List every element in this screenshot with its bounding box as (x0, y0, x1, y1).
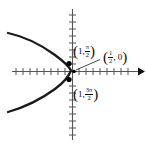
graph-canvas (0, 0, 146, 147)
label-cusp-denominator: 2 (108, 57, 113, 65)
x-axis-arrow-icon (138, 68, 145, 76)
leader-line-cusp (76, 60, 100, 71)
label-point-cusp: (12, 0) (103, 48, 127, 65)
label-cusp-fraction: 12 (108, 50, 113, 65)
point-marker-upper (66, 61, 71, 66)
label-cusp-close: ) (122, 49, 127, 65)
point-marker-cusp (72, 70, 76, 74)
label-upper-numerator: π (85, 44, 90, 51)
label-cusp-numerator: 1 (108, 50, 113, 57)
label-lower-denominator: 2 (85, 94, 94, 102)
point-marker-lower (66, 77, 71, 82)
label-point-lower: (1,3π2) (73, 85, 98, 102)
label-upper-fraction: π2 (85, 44, 90, 59)
label-lower-fraction: 3π2 (85, 87, 94, 102)
label-lower-close: ) (93, 86, 98, 102)
label-upper-denominator: 2 (85, 51, 90, 59)
label-cusp-rest: , 0 (113, 52, 122, 62)
polar-graph-figure: (1,π2) (12, 0) (1,3π2) (0, 0, 146, 147)
label-upper-close: ) (90, 43, 95, 59)
label-upper-r: 1, (78, 46, 85, 56)
label-lower-r: 1, (78, 89, 85, 99)
cardioid-curve (8, 33, 71, 112)
label-point-upper: (1,π2) (73, 42, 95, 59)
label-lower-numerator: 3π (85, 87, 94, 94)
